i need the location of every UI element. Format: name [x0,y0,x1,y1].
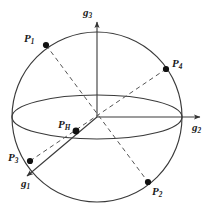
chord-p3-p4 [30,69,166,161]
point-label-p2-base: P [152,185,159,197]
point-marker-p3 [27,158,33,164]
point-label-p3: P3 [8,152,18,165]
point-label-p3-sub: 3 [15,157,19,165]
point-label-p4: P4 [172,58,182,71]
diagram-canvas [0,0,217,213]
point-label-ph-sub: H [65,124,71,132]
axis-label-g1: g1 [21,178,30,191]
axis-label-g3-sub: 3 [89,12,93,20]
axis-label-g2: g2 [192,122,201,135]
point-label-p1-sub: 1 [31,38,35,46]
axis-label-g2-sub: 2 [198,127,202,135]
point-marker-ph [73,128,80,135]
point-label-p2: P2 [152,186,162,199]
point-label-p1-base: P [24,32,31,44]
point-label-p4-sub: 4 [179,63,183,71]
point-marker-p1 [43,42,49,48]
point-marker-p2 [145,179,151,185]
point-label-ph: PH [58,119,70,132]
point-label-p3-base: P [8,151,15,163]
point-label-p1: P1 [24,33,34,46]
point-label-p2-sub: 2 [159,191,163,199]
point-label-p4-base: P [172,57,179,69]
axis-label-g1-sub: 1 [27,183,31,191]
sphere-axes-diagram: g1 g2 g3 P1 P2 P3 P4 PH [0,0,217,213]
point-marker-p4 [163,66,169,72]
axis-label-g3: g3 [83,7,92,20]
point-label-ph-base: P [58,118,65,130]
